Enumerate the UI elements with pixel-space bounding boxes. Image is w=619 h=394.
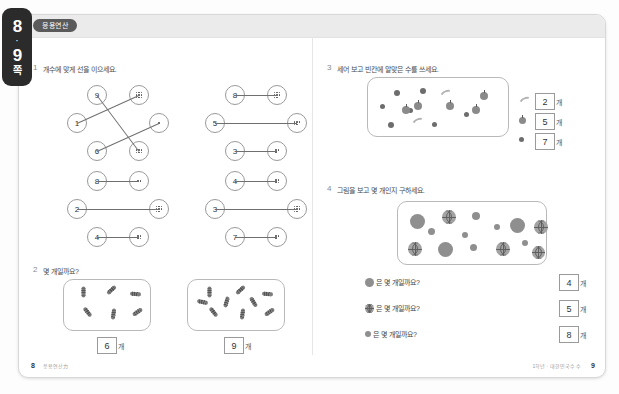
header-band xyxy=(19,15,605,38)
match-line xyxy=(235,237,277,238)
apple-icon xyxy=(472,106,480,114)
problem-4-answer-2[interactable]: 5 xyxy=(559,300,579,317)
tab-unit-label: 쪽 xyxy=(13,66,22,76)
plain-ball-icon xyxy=(365,278,374,287)
footer-left-page: 8 xyxy=(31,362,35,369)
seed-item xyxy=(207,287,211,298)
plain-ball-icon xyxy=(472,212,480,220)
apple-icon xyxy=(446,102,454,110)
small-ball-icon xyxy=(365,331,371,337)
match-line xyxy=(97,181,139,182)
tab-page-a: 8 xyxy=(13,18,21,35)
plain-ball-icon xyxy=(494,224,500,230)
match-line xyxy=(77,209,159,210)
problem-2-title: 몇 개일까요? xyxy=(43,266,79,276)
problem-4-answer-1[interactable]: 4 xyxy=(559,274,579,291)
problem-4-number: 4 xyxy=(327,184,331,193)
apple-icon xyxy=(519,117,526,124)
plain-ball-icon xyxy=(410,214,425,229)
basketball-icon xyxy=(365,304,374,313)
plain-ball-icon xyxy=(438,242,453,257)
plain-ball-icon xyxy=(510,218,525,233)
match-line xyxy=(215,209,297,210)
problem-3-number: 3 xyxy=(327,63,331,72)
problem-4-unit-2: 개 xyxy=(580,304,586,314)
plain-ball-icon xyxy=(428,228,435,235)
basketball-icon xyxy=(532,246,545,259)
ball-box xyxy=(397,201,547,265)
problem-2-answer-2[interactable]: 9 xyxy=(224,337,244,354)
basketball-icon xyxy=(496,242,510,256)
problem-4-question-3: 은 몇 개일까요? xyxy=(365,329,417,339)
problem-4-title: 그림을 보고 몇 개인지 구하세요. xyxy=(337,185,425,195)
seed-item xyxy=(249,296,258,307)
question-text: 은 몇 개일까요? xyxy=(373,329,417,339)
berry-icon xyxy=(394,90,400,96)
problem-3-unit-2: 개 xyxy=(556,117,562,127)
banana-icon xyxy=(517,95,534,111)
problem-2-number: 2 xyxy=(33,265,37,274)
seed-item xyxy=(235,285,246,295)
problem-1-number: 1 xyxy=(33,63,37,72)
seed-item xyxy=(224,296,231,308)
berry-icon xyxy=(432,122,437,127)
problem-2-unit-2: 개 xyxy=(245,341,251,351)
seed-item xyxy=(240,308,245,319)
apple-icon xyxy=(414,102,422,110)
workbook-page: 8 · 9 쪽 응용연산 1 개수에 맞게 선을 이으세요. 916853824… xyxy=(0,0,619,394)
plain-ball-icon xyxy=(470,244,477,251)
berry-icon xyxy=(388,122,394,128)
plain-ball-icon xyxy=(522,240,528,246)
problem-4-unit-3: 개 xyxy=(580,330,586,340)
basketball-icon xyxy=(534,220,548,234)
apple-icon xyxy=(480,92,488,100)
seed-item xyxy=(264,307,275,317)
berry-icon xyxy=(420,88,426,94)
berry-icon xyxy=(380,104,385,109)
apple-icon xyxy=(402,106,410,114)
banana-icon xyxy=(410,116,427,132)
seed-item xyxy=(130,292,141,297)
problem-1-title: 개수에 맞게 선을 이으세요. xyxy=(43,64,117,74)
question-text: 은 몇 개일까요? xyxy=(376,277,420,287)
problem-4-unit-1: 개 xyxy=(580,278,586,288)
plain-ball-icon xyxy=(462,232,468,238)
match-line xyxy=(97,123,159,152)
footer-right-meta: 1학년 · 대한민국수 수 xyxy=(532,362,581,369)
seed-box-1 xyxy=(63,279,151,331)
basketball-icon xyxy=(442,210,456,224)
tab-separator: · xyxy=(15,36,18,46)
footer-right-page: 9 xyxy=(591,362,595,369)
seed-item xyxy=(262,292,273,297)
seed-item xyxy=(82,287,86,298)
match-line xyxy=(77,95,139,124)
section-chip: 응용연산 xyxy=(33,19,77,32)
berry-icon xyxy=(519,137,524,142)
problem-4-question-2: 은 몇 개일까요? xyxy=(365,303,420,313)
match-line xyxy=(235,95,277,96)
match-line xyxy=(97,237,139,238)
seed-item xyxy=(111,308,116,319)
problem-3-unit-3: 개 xyxy=(556,137,562,147)
berry-icon xyxy=(464,112,469,117)
banana-icon xyxy=(438,88,455,104)
problem-2-answer-1[interactable]: 6 xyxy=(97,337,117,354)
problem-3-unit-1: 개 xyxy=(556,97,562,107)
match-line xyxy=(215,123,297,124)
match-line xyxy=(235,181,277,182)
seed-item xyxy=(209,306,219,317)
question-text: 은 몇 개일까요? xyxy=(376,303,420,313)
problem-3-answer-3[interactable]: 7 xyxy=(535,133,555,150)
page-spine xyxy=(312,37,313,355)
problem-3-answer-2[interactable]: 5 xyxy=(535,113,555,130)
page-index-tab[interactable]: 8 · 9 쪽 xyxy=(2,8,32,86)
problem-4-question-1: 은 몇 개일까요? xyxy=(365,277,420,287)
seed-box-2 xyxy=(187,279,285,331)
seed-item xyxy=(106,285,117,295)
seed-item xyxy=(197,299,209,305)
seed-item xyxy=(82,306,92,317)
tab-page-b: 9 xyxy=(13,47,21,64)
problem-3-answer-1[interactable]: 2 xyxy=(535,93,555,110)
footer-left-meta: 응용연산力 xyxy=(43,362,68,369)
problem-4-answer-3[interactable]: 8 xyxy=(559,326,579,343)
